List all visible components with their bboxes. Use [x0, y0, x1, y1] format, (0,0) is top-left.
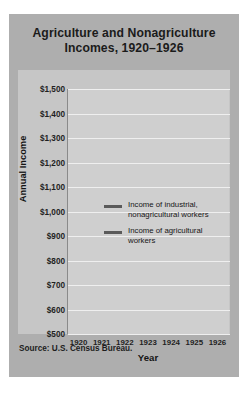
gridline — [68, 138, 230, 139]
legend-label: Income of industrial, nonagricultural wo… — [128, 200, 226, 219]
gridline — [68, 187, 230, 188]
y-axis-tick: $900 — [13, 232, 65, 241]
legend-item: Income of agricultural workers — [104, 226, 226, 245]
x-axis-tick: 1926 — [202, 338, 232, 347]
y-axis-tick: $1,500 — [13, 85, 65, 94]
gridline — [68, 89, 230, 90]
legend-swatch-icon — [104, 205, 122, 208]
gridline — [68, 334, 230, 335]
y-axis-tick: $1,400 — [13, 109, 65, 118]
legend-swatch-icon — [104, 231, 122, 234]
gridline — [68, 163, 230, 164]
y-axis-tick: $500 — [13, 330, 65, 339]
gridline — [68, 310, 230, 311]
y-axis-label: Annual Income — [18, 131, 28, 207]
x-axis-label: Year — [67, 352, 229, 363]
legend-label: Income of agricultural workers — [128, 226, 226, 245]
legend-item: Income of industrial, nonagricultural wo… — [104, 200, 226, 219]
y-axis-tick: $1,000 — [13, 207, 65, 216]
y-axis-tick: $600 — [13, 305, 65, 314]
y-axis-tick: $700 — [13, 281, 65, 290]
chart-card: Agriculture and Nonagriculture Incomes, … — [9, 14, 239, 377]
gridline — [68, 261, 230, 262]
y-axis-tick: $800 — [13, 256, 65, 265]
gridline — [68, 114, 230, 115]
gridline — [68, 285, 230, 286]
y-axis-tick-labels: $1,500$1,400$1,300$1,200$1,100$1,000$900… — [9, 89, 65, 334]
chart-legend: Income of industrial, nonagricultural wo… — [104, 200, 226, 252]
chart-title: Agriculture and Nonagriculture Incomes, … — [9, 26, 239, 56]
